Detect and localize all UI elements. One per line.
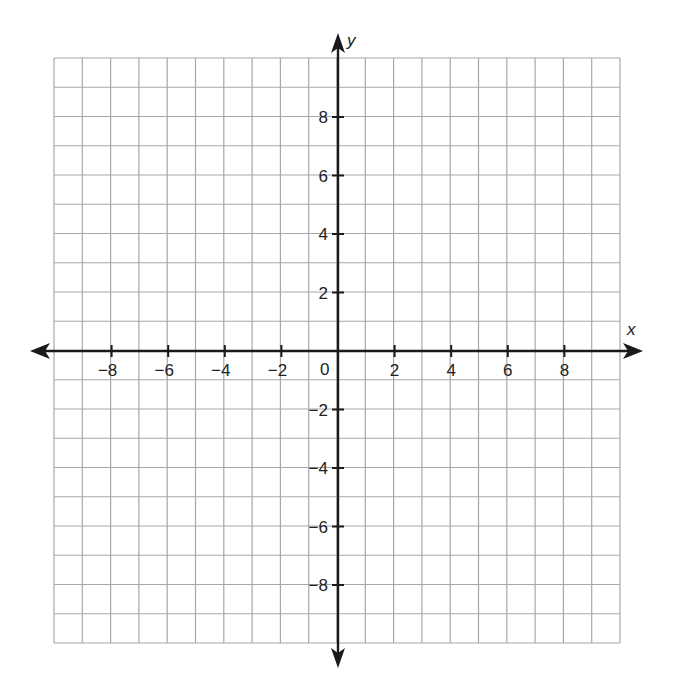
x-tick-label: −2	[268, 361, 287, 380]
y-tick-label: 6	[319, 167, 328, 186]
x-tick-label: −6	[155, 361, 174, 380]
y-axis-label: y	[346, 31, 357, 50]
x-tick-label: −4	[211, 361, 230, 380]
y-tick-label: −4	[309, 459, 328, 478]
x-tick-label: −8	[98, 361, 117, 380]
y-tick-label: −8	[309, 576, 328, 595]
origin-label: 0	[320, 360, 329, 379]
coordinate-plane: −8−6−4−224688642−2−4−6−8 x y 0	[0, 0, 673, 687]
x-tick-label: 2	[390, 361, 399, 380]
x-tick-label: 4	[446, 361, 455, 380]
x-tick-label: 6	[503, 361, 512, 380]
y-tick-label: 4	[319, 225, 328, 244]
y-tick-label: 2	[319, 284, 328, 303]
y-tick-label: 8	[319, 108, 328, 127]
x-axis-label: x	[626, 320, 636, 339]
y-tick-label: −2	[309, 401, 328, 420]
y-tick-label: −6	[309, 518, 328, 537]
x-tick-label: 8	[560, 361, 569, 380]
